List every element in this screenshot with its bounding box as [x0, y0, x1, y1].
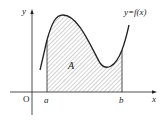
area-diagram: y=f(x) A O x y a b [0, 0, 165, 120]
x-axis-label: x [151, 94, 156, 104]
region-label: A [67, 60, 75, 71]
y-axis-arrow-icon [30, 9, 33, 14]
shaded-region-A [47, 15, 122, 92]
curve-label: y=f(x) [123, 7, 147, 17]
origin-label: O [23, 94, 30, 104]
y-axis-label: y [21, 6, 26, 16]
lower-bound-label: a [44, 95, 49, 105]
upper-bound-label: b [119, 95, 124, 105]
